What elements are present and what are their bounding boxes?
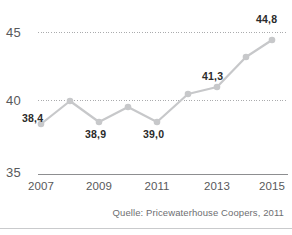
chart-container: 45 40 35 2007 2009 2011 2013 2015 38,4 3…: [0, 0, 292, 235]
x-axis-tick-2009: 2009: [79, 180, 119, 192]
x-axis-tick-2007: 2007: [21, 180, 61, 192]
value-label-2015: 44,8: [256, 13, 277, 25]
value-label-2013: 41,3: [202, 70, 223, 82]
y-axis-tick-40: 40: [6, 93, 32, 108]
data-point-2010: [125, 104, 132, 111]
y-axis-tick-45: 45: [6, 25, 32, 40]
value-label-2009: 38,9: [85, 128, 106, 140]
chart-canvas: [0, 0, 292, 235]
source-note: Quelle: Pricewaterhouse Coopers, 2011: [113, 207, 284, 218]
bottom-divider: [0, 228, 292, 229]
x-axis-tick-2015: 2015: [252, 180, 292, 192]
data-point-2013: [214, 84, 221, 91]
series-line: [41, 40, 272, 124]
data-point-2014: [243, 54, 250, 61]
data-point-2015: [269, 37, 276, 44]
data-point-2012: [185, 91, 192, 98]
value-label-2007: 38,4: [22, 112, 43, 124]
x-axis-tick-2011: 2011: [137, 180, 177, 192]
data-point-2008: [67, 98, 74, 105]
line-chart-plot: 45 40 35 2007 2009 2011 2013 2015 38,4 3…: [0, 0, 292, 235]
value-label-2011: 39,0: [143, 128, 164, 140]
x-axis-tick-2013: 2013: [197, 180, 237, 192]
data-point-2009: [96, 119, 103, 126]
y-axis-tick-35: 35: [6, 165, 32, 180]
data-point-2011: [154, 119, 161, 126]
